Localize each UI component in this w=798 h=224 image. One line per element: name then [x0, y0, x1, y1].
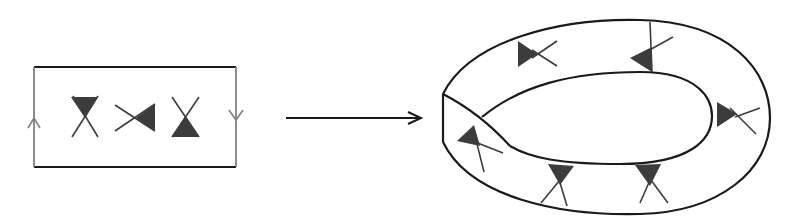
band-glyph-right: [717, 102, 760, 134]
bowtie-glyph-bottom-filled: [172, 97, 199, 137]
bowtie-glyph-right-filled: [115, 104, 155, 131]
diagram-canvas: [0, 0, 798, 224]
mapping-arrow: [286, 112, 421, 124]
band-glyph-bottom-right: [635, 164, 668, 203]
band-glyph-top-left: [518, 41, 557, 67]
band-glyph-top-right: [630, 22, 673, 72]
band-glyph-bottom-left: [541, 164, 574, 206]
band-inner-boundary: [482, 72, 712, 164]
band-glyphs: [457, 22, 760, 206]
bowtie-glyph-top-filled: [71, 96, 98, 137]
rectangle-panel: [28, 67, 243, 167]
